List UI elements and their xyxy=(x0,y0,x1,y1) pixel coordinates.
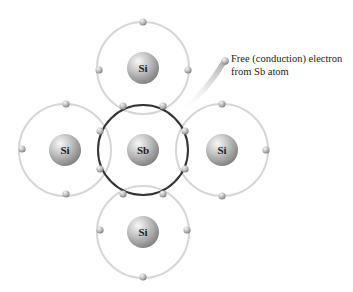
bond-electron xyxy=(159,190,166,197)
free-electron xyxy=(221,57,229,65)
label-si-right: Si xyxy=(217,144,226,156)
electron xyxy=(218,192,225,199)
label-si-top: Si xyxy=(138,62,147,74)
bond-electron xyxy=(96,127,103,134)
label-si-left: Si xyxy=(60,144,69,156)
electron xyxy=(262,146,269,153)
electron xyxy=(218,100,225,107)
silicon-antimony-lattice-diagram: Si Si Sb Si Si xyxy=(0,0,353,292)
electron xyxy=(139,273,146,280)
electron xyxy=(18,145,25,152)
electron xyxy=(62,190,69,197)
electron xyxy=(139,18,146,25)
bond-electron xyxy=(181,165,188,172)
electron xyxy=(184,66,191,73)
annotation-line-1: Free (conduction) electron xyxy=(231,52,342,65)
bond-electron xyxy=(159,102,166,109)
electron xyxy=(183,226,190,233)
label-sb: Sb xyxy=(137,144,149,156)
bond-electron xyxy=(119,102,126,109)
bond-electron xyxy=(119,190,126,197)
electron xyxy=(62,100,69,107)
annotation-line-2: from Sb atom xyxy=(231,65,342,78)
free-electron-annotation: Free (conduction) electron from Sb atom xyxy=(231,52,342,78)
electron xyxy=(96,226,103,233)
label-si-bottom: Si xyxy=(138,226,147,238)
bond-electron xyxy=(96,165,103,172)
bond-electron xyxy=(181,127,188,134)
electron xyxy=(95,66,102,73)
